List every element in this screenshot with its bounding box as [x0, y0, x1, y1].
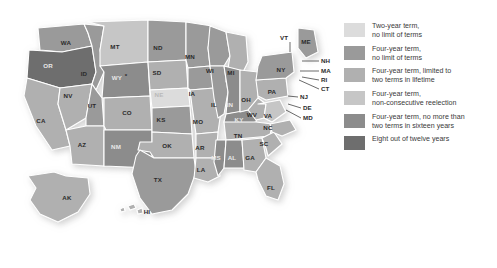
state-label-la: LA	[197, 166, 206, 173]
state-label-md: MD	[303, 114, 313, 121]
state-label-de: DE	[303, 104, 312, 111]
state-label-il: IL	[211, 101, 217, 108]
state-label-ms: MS	[211, 154, 221, 161]
state-label-nv: NV	[64, 92, 74, 99]
leader-line-nj	[288, 96, 298, 97]
state-label-or: OR	[43, 62, 53, 69]
state-tx[interactable]	[132, 150, 196, 214]
legend-text-eight-of-twelve: Eight out of twelve years	[372, 135, 449, 144]
state-label-tx: TX	[154, 176, 163, 183]
state-label-mn: MN	[185, 53, 195, 60]
legend-line: Four-year term,	[372, 90, 456, 99]
state-label-me: ME	[301, 38, 311, 45]
legend-line: non-consecutive reelection	[372, 99, 456, 108]
legend-item-four-year-no-limit[interactable]: Four-year term,no limit of terms	[344, 45, 496, 63]
state-label-nd: ND	[153, 44, 163, 51]
state-label-mt: MT	[110, 43, 119, 50]
legend-swatch-four-year-two-in-sixteen	[344, 114, 365, 128]
state-hi[interactable]	[128, 204, 136, 210]
wyoming-asterisk: *	[125, 72, 128, 79]
state-hi-islet-1	[120, 207, 125, 212]
legend-line: Four-year term, no more than	[372, 113, 465, 122]
state-label-sc: SC	[260, 140, 269, 147]
state-label-ut: UT	[88, 102, 97, 109]
state-label-az: AZ	[78, 141, 87, 148]
state-label-ky: KY	[235, 116, 245, 123]
legend-line: Four-year term,	[372, 45, 422, 54]
state-label-ne: NE	[155, 91, 164, 98]
leader-line-de	[288, 104, 301, 108]
legend-text-two-year-no-limit: Two-year term,no limit of terms	[372, 22, 422, 40]
legend-swatch-eight-of-twelve	[344, 136, 365, 150]
state-label-ak: AK	[62, 194, 72, 201]
leader-line-md	[286, 110, 301, 118]
legend-line: Eight out of twelve years	[372, 135, 449, 144]
state-label-mi: MI	[227, 69, 234, 76]
state-label-al: AL	[228, 154, 237, 161]
legend-text-four-year-no-limit: Four-year term,no limit of terms	[372, 45, 422, 63]
legend-item-four-year-two-lifetime[interactable]: Four-year term, limited totwo terms in l…	[344, 67, 496, 85]
legend-line: Two-year term,	[372, 22, 422, 31]
states-group	[24, 20, 318, 222]
state-label-id: ID	[81, 70, 88, 77]
legend-text-four-year-two-lifetime: Four-year term, limited totwo terms in l…	[372, 67, 451, 85]
state-label-vt: VT	[280, 34, 288, 41]
state-nd[interactable]	[148, 20, 186, 62]
state-label-wa: WA	[61, 39, 72, 46]
state-label-co: CO	[122, 109, 132, 116]
state-wy[interactable]	[100, 62, 150, 98]
state-label-hi: HI	[144, 208, 151, 215]
state-label-in: IN	[227, 101, 234, 108]
leader-line-ri	[302, 77, 319, 80]
legend: Two-year term,no limit of termsFour-year…	[344, 22, 496, 155]
state-label-ny: NY	[277, 66, 287, 73]
state-label-nc: NC	[263, 124, 273, 131]
us-map: WAORCANVIDMTWY*UTAZCONMNDSDNEKSOKTXMNIAM…	[0, 0, 340, 268]
legend-line: no limit of terms	[372, 54, 422, 63]
state-label-nj: NJ	[300, 93, 308, 100]
legend-line: two terms in sixteen years	[372, 122, 465, 131]
legend-line: two terms in lifetime	[372, 76, 451, 85]
legend-swatch-four-year-no-limit	[344, 46, 365, 60]
legend-text-four-year-two-in-sixteen: Four-year term, no more thantwo terms in…	[372, 113, 465, 131]
state-label-ca: CA	[36, 117, 46, 124]
legend-line: no limit of terms	[372, 31, 422, 40]
legend-item-eight-of-twelve[interactable]: Eight out of twelve years	[344, 135, 496, 150]
state-label-ga: GA	[245, 154, 255, 161]
state-label-wy: WY	[112, 74, 123, 81]
state-label-va: VA	[264, 112, 273, 119]
state-label-oh: OH	[241, 96, 251, 103]
state-label-ri: RI	[321, 76, 327, 83]
legend-swatch-two-year-no-limit	[344, 23, 365, 37]
state-label-nm: NM	[111, 143, 121, 150]
state-label-wi: WI	[206, 67, 214, 74]
state-ak[interactable]	[28, 172, 90, 222]
state-label-ks: KS	[157, 116, 166, 123]
state-label-ma: MA	[321, 67, 331, 74]
us-map-svg: WAORCANVIDMTWY*UTAZCONMNDSDNEKSOKTXMNIAM…	[0, 0, 340, 268]
state-label-wv: WV	[247, 111, 258, 118]
legend-item-two-year-no-limit[interactable]: Two-year term,no limit of terms	[344, 22, 496, 40]
state-label-ok: OK	[162, 142, 172, 149]
legend-line: Four-year term, limited to	[372, 67, 451, 76]
legend-text-four-year-non-consecutive: Four-year term,non-consecutive reelectio…	[372, 90, 456, 108]
infographic-root: WAORCANVIDMTWY*UTAZCONMNDSDNEKSOKTXMNIAM…	[0, 0, 497, 268]
state-label-ar: AR	[195, 144, 205, 151]
state-hi-islet-2	[137, 208, 143, 214]
state-label-ia: IA	[189, 90, 196, 97]
legend-item-four-year-non-consecutive[interactable]: Four-year term,non-consecutive reelectio…	[344, 90, 496, 108]
state-label-fl: FL	[267, 184, 275, 191]
state-label-tn: TN	[234, 132, 243, 139]
legend-item-four-year-two-in-sixteen[interactable]: Four-year term, no more thantwo terms in…	[344, 113, 496, 131]
state-label-mo: MO	[193, 118, 203, 125]
state-ny[interactable]	[256, 52, 294, 80]
state-label-pa: PA	[268, 88, 277, 95]
legend-swatch-four-year-non-consecutive	[344, 91, 365, 105]
legend-swatch-four-year-two-lifetime	[344, 68, 365, 82]
state-label-nh: NH	[321, 57, 330, 64]
leader-line-ct	[299, 80, 319, 89]
state-label-sd: SD	[153, 69, 162, 76]
state-label-ct: CT	[321, 85, 329, 92]
